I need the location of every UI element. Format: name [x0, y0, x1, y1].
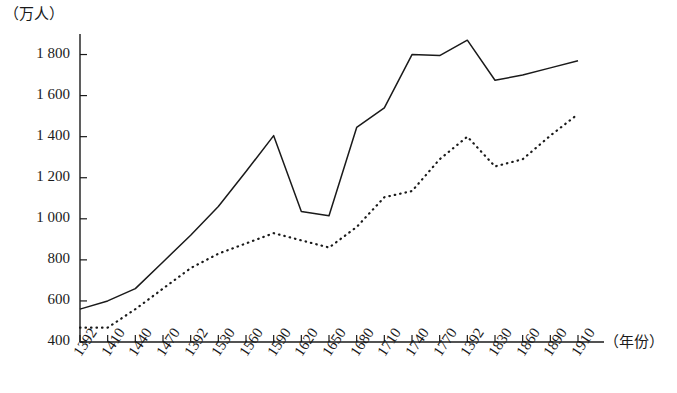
- line-chart: （万人） （年份） 4006008001 0001 2001 4001 6001…: [0, 0, 677, 393]
- plot-area: [0, 0, 677, 393]
- series-dotted-line: [80, 114, 578, 328]
- series-solid-line: [80, 40, 578, 309]
- x-axis-ticks: [80, 335, 578, 342]
- y-axis-ticks: [80, 55, 87, 342]
- axis-lines: [80, 34, 604, 342]
